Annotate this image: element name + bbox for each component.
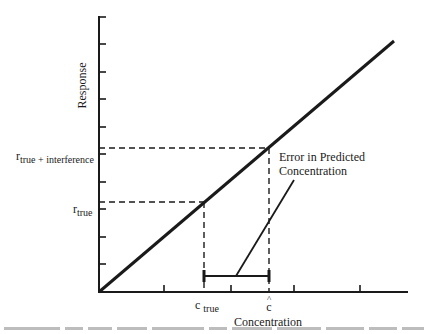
annotation-pointer (236, 180, 294, 276)
r-true-interference-label: rtrue + interference (16, 150, 94, 162)
y-ticks (99, 17, 106, 264)
r-true-label: rtrue (73, 203, 93, 215)
r-subscript: true + interference (20, 154, 94, 165)
c-subscript: true (203, 303, 219, 314)
c-symbol: c (195, 298, 200, 312)
figure-caption-clipped (4, 327, 434, 334)
x-ticks (164, 285, 360, 292)
r-subscript: true (77, 207, 93, 218)
y-axis-label: Response (75, 56, 90, 116)
figure-canvas (0, 0, 440, 334)
calibration-line (99, 41, 394, 292)
c-hat-label: ^ c (265, 296, 273, 312)
annotation-line-2: Concentration (279, 165, 347, 177)
c-symbol: c (265, 302, 273, 312)
c-true-label: c true (195, 299, 219, 311)
annotation-line-1: Error in Predicted (279, 151, 365, 163)
